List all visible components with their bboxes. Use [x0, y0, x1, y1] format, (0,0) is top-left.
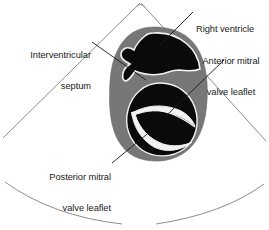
- label-line: valve leaflet: [20, 203, 111, 213]
- label-line: Posterior mitral: [20, 172, 111, 182]
- label-line: septum: [2, 81, 91, 91]
- label-line: valve leaflet: [196, 87, 266, 97]
- label-line: Right ventricle: [196, 24, 268, 34]
- label-line: Interventricular: [2, 50, 91, 60]
- echocardiogram-diagram: Interventricular septum Right ventricle …: [0, 0, 269, 230]
- heart-short-axis-group: [109, 27, 207, 161]
- label-posterior-mitral-valve-leaflet: Posterior mitral valve leaflet: [20, 151, 111, 230]
- label-anterior-mitral-valve-leaflet: Anterior mitral valve leaflet: [196, 35, 266, 118]
- sector-arc-right: [156, 184, 264, 224]
- label-line: Anterior mitral: [196, 56, 266, 66]
- label-interventricular-septum: Interventricular septum: [2, 29, 91, 112]
